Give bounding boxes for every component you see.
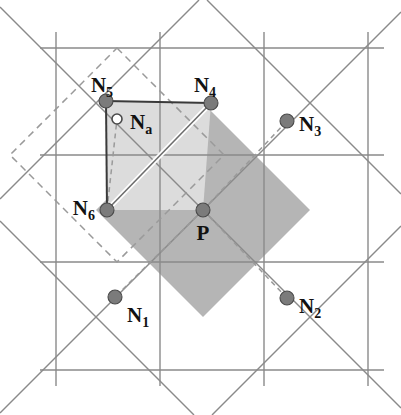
node-label-base: N	[194, 73, 209, 97]
node-label-base: N	[299, 294, 314, 318]
node-label-subscript: 2	[314, 306, 321, 321]
node-label-p: P	[197, 221, 210, 245]
node-label-base: N	[299, 112, 314, 136]
node-label-base: P	[197, 221, 210, 245]
node-label-subscript: a	[145, 122, 152, 137]
node-label-subscript: 4	[209, 85, 216, 100]
node-marker-p	[196, 203, 210, 217]
node-marker-na	[112, 114, 122, 124]
node-label-subscript: 6	[88, 208, 95, 223]
node-label-subscript: 5	[106, 85, 113, 100]
node-label-subscript: 3	[314, 124, 321, 139]
node-marker-n2	[280, 291, 294, 305]
light-region-edge-left	[106, 101, 107, 210]
node-label-base: N	[130, 110, 145, 134]
node-marker-n6	[100, 203, 114, 217]
node-label-base: N	[127, 303, 142, 327]
node-marker-n3	[280, 114, 294, 128]
node-label-base: N	[91, 73, 106, 97]
node-label-subscript: 1	[142, 315, 149, 330]
figure-canvas: N1N2N3N4N5N6NaP	[0, 0, 401, 415]
diagram-svg: N1N2N3N4N5N6NaP	[0, 0, 401, 415]
node-label-base: N	[73, 196, 88, 220]
node-marker-n1	[108, 290, 122, 304]
